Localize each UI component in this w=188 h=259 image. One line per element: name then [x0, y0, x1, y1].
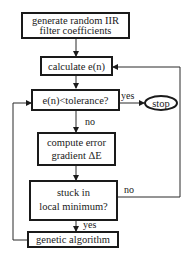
edge-label-no-loop: no: [124, 184, 134, 195]
node-stop: stop: [145, 96, 177, 110]
node-generate-line1: generate random IIR: [32, 15, 119, 26]
flowchart: generate random IIR filter coefficients …: [0, 0, 188, 259]
node-genetic: genetic algorithm: [28, 232, 118, 247]
arrow-stuck-to-calculate: [113, 67, 180, 197]
edge-label-yes-genetic: yes: [83, 219, 96, 230]
node-stuck-line1: stuck in: [57, 187, 91, 198]
node-tolerance-label: e(n)<tolerance?: [43, 95, 109, 107]
node-tolerance: e(n)<tolerance?: [32, 90, 119, 110]
edge-label-no-gradient: no: [85, 116, 95, 127]
node-calculate: calculate e(n): [41, 57, 112, 75]
node-stop-label: stop: [152, 98, 170, 109]
node-generate: generate random IIR filter coefficients: [22, 13, 129, 38]
node-stuck: stuck in local minimum?: [30, 181, 117, 220]
node-genetic-label: genetic algorithm: [36, 234, 110, 245]
node-generate-line2: filter coefficients: [40, 25, 112, 36]
node-gradient-line2: gradient ΔE: [51, 150, 101, 161]
node-calculate-label: calculate e(n): [48, 61, 105, 73]
node-gradient-line1: compute error: [47, 137, 107, 148]
node-gradient: compute error gradient ΔE: [38, 133, 115, 165]
arrow-genetic-to-tolerance: [13, 103, 31, 240]
edge-label-yes-stop: yes: [121, 90, 134, 101]
node-stuck-line2: local minimum?: [39, 201, 108, 212]
